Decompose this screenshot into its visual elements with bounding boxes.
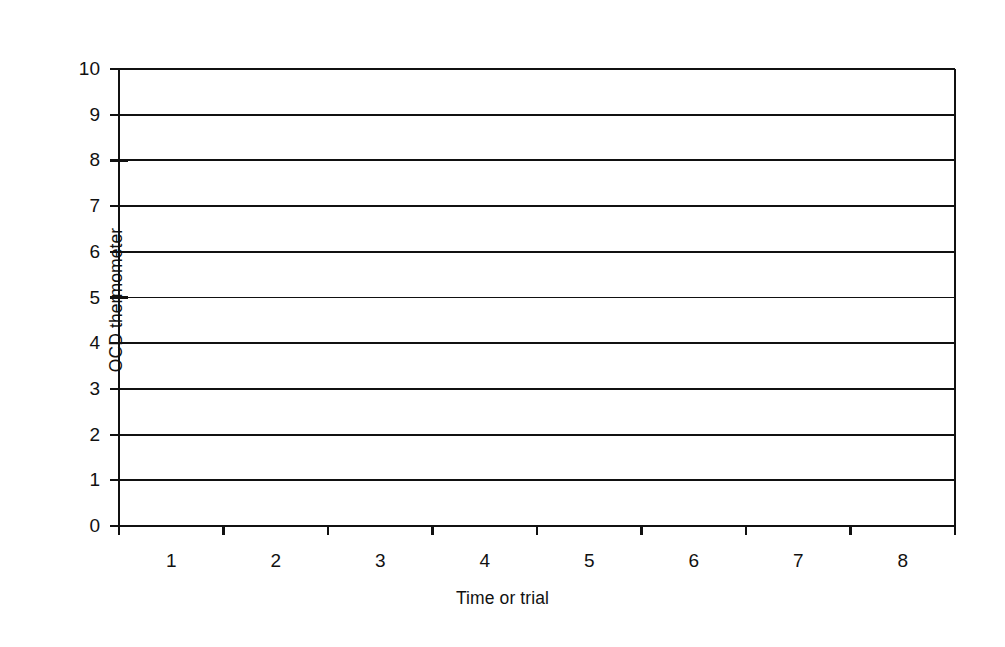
chart-figure: 012345678910 12345678 OCD thermometer Ti… bbox=[0, 0, 1005, 647]
x-tick-label: 8 bbox=[873, 551, 933, 570]
x-tick-label: 6 bbox=[664, 551, 724, 570]
horizontal-gridlines bbox=[119, 69, 955, 526]
y-tick-label: 3 bbox=[58, 379, 100, 398]
y-tick-label: 4 bbox=[58, 333, 100, 352]
y-tick-label: 8 bbox=[58, 150, 100, 169]
y-tick-label: 2 bbox=[58, 425, 100, 444]
y-axis-title-text: OCD thermometer bbox=[106, 228, 127, 372]
x-tick-label: 2 bbox=[246, 551, 306, 570]
x-tick-label: 5 bbox=[559, 551, 619, 570]
x-axis-title: Time or trial bbox=[0, 588, 1005, 609]
x-tick-label: 3 bbox=[350, 551, 410, 570]
y-axis-title: OCD thermometer bbox=[106, 228, 127, 372]
x-tick-label: 1 bbox=[141, 551, 201, 570]
x-axis-title-text: Time or trial bbox=[456, 588, 549, 608]
x-tick-label: 7 bbox=[768, 551, 828, 570]
y-tick-label: 6 bbox=[58, 242, 100, 261]
y-tick-label: 10 bbox=[58, 59, 100, 78]
y-tick-label: 0 bbox=[58, 516, 100, 535]
y-tick-label: 9 bbox=[58, 105, 100, 124]
y-tick-label: 7 bbox=[58, 196, 100, 215]
chart-plot-area bbox=[0, 0, 1005, 647]
y-tick-label: 5 bbox=[58, 288, 100, 307]
y-tick-label: 1 bbox=[58, 470, 100, 489]
x-tick-label: 4 bbox=[455, 551, 515, 570]
